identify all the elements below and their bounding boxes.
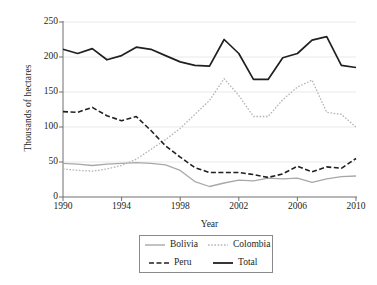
legend: BoliviaColombiaPeruTotal — [139, 235, 273, 273]
legend-item-peru[interactable]: Peru — [140, 258, 206, 268]
legend-item-colombia[interactable]: Colombia — [206, 240, 272, 250]
legend-label: Total — [238, 258, 257, 268]
line-chart: Thousands of hectares 050100150200250 19… — [0, 0, 377, 285]
legend-item-bolivia[interactable]: Bolivia — [140, 240, 206, 250]
legend-label: Peru — [174, 258, 191, 268]
legend-item-total[interactable]: Total — [206, 258, 272, 268]
series-line-peru — [63, 107, 356, 177]
series-line-bolivia — [63, 163, 356, 187]
legend-swatch-colombia-icon — [207, 241, 229, 249]
x-axis-title: Year — [63, 219, 356, 229]
series-line-colombia — [63, 79, 356, 171]
series-line-total — [63, 37, 356, 80]
legend-swatch-total-icon — [212, 259, 234, 267]
legend-swatch-bolivia-icon — [144, 241, 166, 249]
legend-swatch-peru-icon — [148, 259, 170, 267]
legend-label: Bolivia — [170, 240, 198, 250]
legend-label: Colombia — [233, 240, 270, 250]
